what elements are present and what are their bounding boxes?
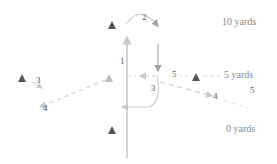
yard-label-5: 5 yards — [224, 69, 253, 80]
yard-label-10: 10 yards — [222, 16, 256, 27]
player-triangle-icon — [108, 21, 116, 29]
step-label-4-right: 4 — [213, 91, 218, 101]
route-4-continue — [216, 98, 248, 108]
player-triangle-icon — [108, 126, 116, 134]
route-diagram: 10 yards 5 yards 0 yards 1 2 3 4 3 4 5 5 — [0, 0, 277, 164]
route-4-diagonal — [160, 82, 212, 96]
step-label-3-left: 3 — [36, 75, 41, 85]
step-label-1: 1 — [120, 56, 125, 66]
player-triangle-icon — [18, 74, 26, 82]
route-center-to-left — [40, 80, 105, 107]
step-label-4-left: 4 — [43, 103, 48, 113]
step-label-2: 2 — [142, 12, 147, 22]
step-label-3-center: 3 — [151, 83, 156, 93]
player-triangle-icon — [192, 73, 200, 81]
player-triangle-icon — [105, 74, 113, 82]
yard-label-0: 0 yards — [226, 123, 255, 134]
step-label-5-center: 5 — [172, 69, 177, 79]
step-label-5-right: 5 — [250, 85, 255, 95]
